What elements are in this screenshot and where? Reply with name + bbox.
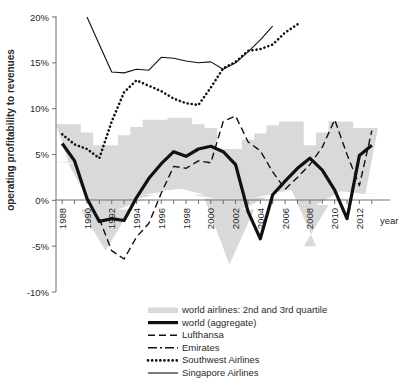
x-tick-label: 2002	[230, 208, 241, 229]
x-axis-title: year	[380, 215, 398, 226]
x-tick-label: 1998	[181, 208, 192, 229]
chart-legend: world airlines: 2nd and 3rd quartileworl…	[148, 304, 327, 378]
y-tick-label: 10%	[30, 103, 50, 114]
legend-item[interactable]: Singapore Airlines	[148, 367, 259, 378]
quartile-band	[56, 118, 378, 265]
legend-label: Singapore Airlines	[182, 367, 259, 378]
y-axis-title: operating profitability to revenues	[5, 49, 16, 211]
y-tick-label: 15%	[30, 57, 50, 68]
x-tick-label: 2010	[329, 208, 340, 229]
y-tick-label: 20%	[30, 12, 50, 23]
legend-swatch-band	[148, 308, 178, 314]
legend-label: Lufthansa	[182, 329, 224, 340]
x-tick-label: 1988	[57, 208, 68, 229]
legend-item[interactable]: Lufthansa	[148, 329, 224, 340]
x-tick-label: 1990	[82, 208, 93, 229]
legend-item[interactable]: world airlines: 2nd and 3rd quartile	[148, 304, 327, 315]
x-tick-label: 2012	[354, 208, 365, 229]
legend-item[interactable]: Emirates	[148, 342, 220, 353]
x-tick-label: 2008	[304, 208, 315, 229]
series-singapore-airlines	[87, 17, 273, 73]
legend-label: world (aggregate)	[181, 317, 256, 328]
y-tick-label: -5%	[32, 241, 49, 252]
x-tick-label: 2000	[205, 208, 216, 229]
legend-label: world airlines: 2nd and 3rd quartile	[181, 304, 327, 315]
y-tick-label: 0%	[35, 195, 49, 206]
y-tick-label: 5%	[35, 149, 49, 160]
x-tick-label: 2006	[280, 208, 291, 229]
x-tick-label: 1996	[156, 208, 167, 229]
legend-label: Southwest Airlines	[182, 354, 260, 365]
y-tick-label: -10%	[27, 287, 50, 298]
x-tick-label: 1994	[131, 208, 142, 229]
legend-item[interactable]: Southwest Airlines	[148, 354, 260, 365]
chart-figure: 20%15%10%5%0%-5%-10%19881990199219941996…	[0, 0, 415, 390]
legend-label: Emirates	[182, 342, 220, 353]
profitability-line-chart: 20%15%10%5%0%-5%-10%19881990199219941996…	[0, 0, 415, 390]
legend-item[interactable]: world (aggregate)	[148, 317, 256, 328]
